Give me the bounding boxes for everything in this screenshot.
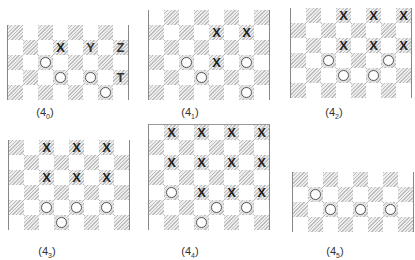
dark-square: [306, 68, 321, 83]
board-4_3: XXXXXX: [8, 140, 130, 230]
dark-square: [84, 215, 99, 230]
dark-square: [353, 172, 368, 187]
x-piece-icon: X: [53, 40, 68, 55]
x-piece-icon: X: [396, 8, 411, 23]
dark-square: [381, 23, 396, 38]
dark-square: [114, 185, 129, 200]
dark-square: [164, 70, 179, 85]
x-piece-icon: X: [254, 155, 269, 170]
circle-piece-icon: [366, 68, 381, 83]
dark-square: [9, 200, 24, 215]
dark-square: [338, 217, 353, 232]
x-piece-icon: X: [254, 185, 269, 200]
x-piece-icon: X: [99, 140, 114, 155]
dark-square: [179, 85, 194, 100]
dark-square: [351, 53, 366, 68]
x-piece-icon: X: [224, 185, 239, 200]
circle-piece-icon: [194, 70, 209, 85]
dark-square: [398, 217, 413, 232]
x-piece-icon: X: [194, 155, 209, 170]
circle-piece-icon: [194, 215, 209, 230]
x-piece-icon: X: [366, 8, 381, 23]
dark-square: [291, 83, 306, 98]
dark-square: [179, 140, 194, 155]
dark-square: [308, 217, 323, 232]
square-letter-label: T: [113, 70, 128, 85]
dark-square: [114, 155, 129, 170]
dark-square: [291, 53, 306, 68]
dark-square: [224, 215, 239, 230]
x-piece-icon: X: [254, 125, 269, 140]
dark-square: [164, 215, 179, 230]
circle-piece-icon: [209, 200, 224, 215]
dark-square: [293, 202, 308, 217]
circle-piece-icon: [336, 68, 351, 83]
dark-square: [24, 155, 39, 170]
dark-square: [164, 40, 179, 55]
dark-square: [194, 40, 209, 55]
dark-square: [84, 185, 99, 200]
circle-piece-icon: [383, 202, 398, 217]
caption-close: ): [52, 245, 56, 257]
dark-square: [164, 10, 179, 25]
panel-caption: (43): [27, 245, 67, 259]
dark-square: [8, 55, 23, 70]
circle-piece-icon: [164, 185, 179, 200]
dark-square: [149, 170, 164, 185]
dark-square: [9, 140, 24, 155]
x-piece-icon: X: [224, 125, 239, 140]
dark-square: [179, 200, 194, 215]
dark-square: [149, 25, 164, 40]
circle-piece-icon: [99, 200, 114, 215]
panel-caption: (44): [170, 245, 210, 259]
dark-square: [54, 185, 69, 200]
dark-square: [351, 83, 366, 98]
dark-square: [254, 40, 269, 55]
circle-piece-icon: [54, 215, 69, 230]
square-letter-label: Y: [83, 40, 98, 55]
circle-piece-icon: [98, 85, 113, 100]
dark-square: [8, 85, 23, 100]
caption-close: ): [195, 106, 199, 118]
x-piece-icon: X: [164, 155, 179, 170]
dark-square: [321, 83, 336, 98]
x-piece-icon: X: [69, 170, 84, 185]
dark-square: [54, 155, 69, 170]
x-piece-icon: X: [366, 38, 381, 53]
dark-square: [224, 10, 239, 25]
dark-square: [254, 10, 269, 25]
caption-text: (4: [181, 245, 191, 257]
dark-square: [149, 85, 164, 100]
x-piece-icon: X: [39, 140, 54, 155]
dark-square: [224, 40, 239, 55]
dark-square: [254, 215, 269, 230]
circle-piece-icon: [323, 202, 338, 217]
caption-close: ): [50, 106, 54, 118]
dark-square: [38, 25, 53, 40]
circle-piece-icon: [239, 55, 254, 70]
dark-square: [68, 55, 83, 70]
dark-square: [209, 85, 224, 100]
dark-square: [381, 83, 396, 98]
dark-square: [149, 200, 164, 215]
circle-piece-icon: [53, 70, 68, 85]
x-piece-icon: X: [99, 170, 114, 185]
x-piece-icon: X: [209, 25, 224, 40]
dark-square: [291, 23, 306, 38]
x-piece-icon: X: [396, 38, 411, 53]
dark-square: [98, 55, 113, 70]
caption-close: ): [340, 245, 344, 257]
dark-square: [351, 23, 366, 38]
board-4_5: [292, 172, 414, 232]
dark-square: [293, 172, 308, 187]
caption-text: (4: [326, 245, 336, 257]
dark-square: [114, 215, 129, 230]
dark-square: [179, 25, 194, 40]
x-piece-icon: X: [194, 125, 209, 140]
circle-piece-icon: [239, 200, 254, 215]
caption-text: (4: [325, 106, 335, 118]
x-piece-icon: X: [39, 170, 54, 185]
x-piece-icon: X: [69, 140, 84, 155]
dark-square: [306, 8, 321, 23]
dark-square: [396, 68, 411, 83]
